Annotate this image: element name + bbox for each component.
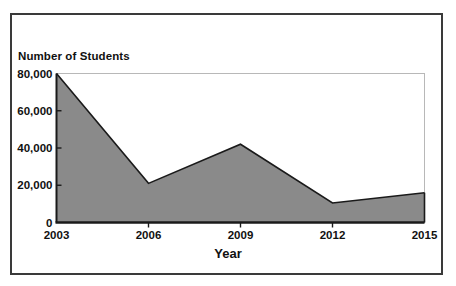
x-tick-label: 2003 (44, 229, 70, 241)
y-tick-label: 0 (46, 217, 52, 229)
x-tick-label: 2015 (412, 229, 438, 241)
area-series-group (57, 74, 425, 223)
area-fill (57, 74, 425, 223)
x-tick-label: 2012 (320, 229, 346, 241)
x-axis-title: Year (0, 246, 456, 261)
x-tick-label: 2006 (136, 229, 162, 241)
y-tick-label: 20,000 (17, 179, 52, 191)
y-tick-label: 60,000 (17, 105, 52, 117)
y-tick-label: 40,000 (17, 142, 52, 154)
y-tick-label: 80,000 (17, 68, 52, 80)
plot-canvas: 020,00040,00060,00080,000200320062009201… (0, 0, 456, 286)
chart-figure: Number of Students 020,00040,00060,00080… (0, 0, 456, 286)
x-tick-label: 2009 (228, 229, 254, 241)
